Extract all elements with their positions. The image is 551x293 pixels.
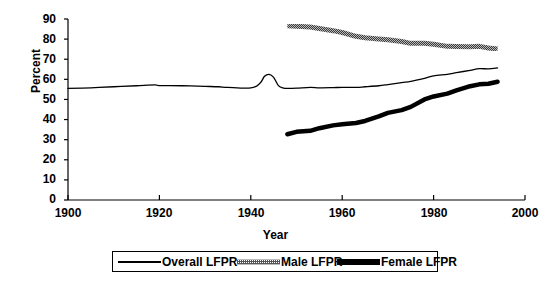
chart-legend: Overall LFPR Male LFPR Female LFPR (112, 251, 438, 272)
y-tick-label-0: 0 (30, 193, 56, 205)
legend-swatch-female-thick-line-icon (337, 259, 380, 265)
y-tick-label-80: 80 (30, 33, 56, 45)
y-tick-label-50: 50 (30, 93, 56, 105)
legend-item-male-lfpr: Male LFPR (237, 252, 342, 271)
series-line-female-lfpr (287, 82, 497, 134)
legend-item-overall-lfpr: Overall LFPR (118, 252, 237, 271)
y-tick-label-70: 70 (30, 53, 56, 65)
y-tick-label-60: 60 (30, 73, 56, 85)
plot-area (0, 0, 551, 293)
series-line-male-lfpr (287, 26, 497, 49)
legend-swatch-male-dotted-line-icon (237, 259, 280, 265)
y-axis-ticks (64, 19, 68, 200)
y-tick-label-10: 10 (30, 173, 56, 185)
x-tick-label-1920: 1920 (135, 207, 183, 219)
x-tick-label-1960: 1960 (318, 207, 366, 219)
x-tick-label-1940: 1940 (227, 207, 275, 219)
legend-item-female-lfpr: Female LFPR (337, 252, 457, 271)
legend-swatch-overall-line-icon (118, 261, 161, 263)
legend-label-female-lfpr: Female LFPR (381, 256, 457, 268)
legend-label-overall-lfpr: Overall LFPR (162, 256, 237, 268)
y-tick-label-30: 30 (30, 133, 56, 145)
series-line-overall-lfpr (68, 68, 498, 89)
x-tick-label-1900: 1900 (44, 207, 92, 219)
y-tick-label-90: 90 (30, 13, 56, 25)
x-axis-title: Year (0, 228, 551, 242)
y-tick-label-20: 20 (30, 153, 56, 165)
x-axis-ticks (68, 195, 525, 200)
x-tick-label-1980: 1980 (410, 207, 458, 219)
lfpr-line-chart: Percent 90 80 70 60 50 40 30 20 10 0 190… (0, 0, 551, 293)
x-tick-label-2000: 2000 (501, 207, 549, 219)
legend-label-male-lfpr: Male LFPR (281, 256, 342, 268)
y-tick-label-40: 40 (30, 113, 56, 125)
